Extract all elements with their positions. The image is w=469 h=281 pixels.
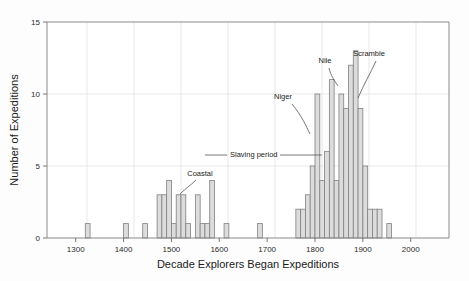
histogram-bar	[363, 166, 368, 238]
histogram-bar	[325, 152, 330, 238]
histogram-bar	[200, 224, 205, 238]
histogram-bar	[301, 209, 306, 238]
y-axis-ticks: 051015	[31, 18, 47, 243]
histogram-bar	[171, 224, 176, 238]
x-tick-label: 1600	[210, 245, 228, 254]
x-tick-label: 1700	[258, 245, 276, 254]
histogram-bar	[315, 94, 320, 238]
histogram-bar	[310, 166, 315, 238]
histogram-bar	[339, 94, 344, 238]
y-tick-label: 0	[36, 234, 41, 243]
histogram-bar	[305, 195, 310, 238]
annotation-label-niger: Niger	[274, 92, 292, 101]
histogram-bar	[377, 209, 382, 238]
x-tick-label: 1900	[354, 245, 372, 254]
y-axis-title: Number of Expeditions	[8, 74, 20, 186]
histogram-bar	[210, 180, 215, 238]
x-tick-label: 1500	[163, 245, 181, 254]
annotation-label-coastal: Coastal	[187, 169, 213, 178]
histogram-bar	[353, 51, 358, 238]
histogram-bar	[334, 180, 339, 238]
x-axis-ticks: 13001400150016001700180019002000	[67, 238, 420, 254]
histogram-bar	[195, 195, 200, 238]
histogram-bar	[296, 209, 301, 238]
chart-figure: 051015 13001400150016001700180019002000 …	[0, 0, 469, 281]
y-tick-label: 10	[31, 90, 40, 99]
y-tick-label: 5	[36, 162, 41, 171]
plot-background	[47, 22, 449, 238]
histogram-bar	[329, 80, 334, 238]
x-tick-label: 1300	[67, 245, 85, 254]
y-tick-label: 15	[31, 18, 40, 27]
annotation-label-scramble: Scramble	[353, 49, 385, 58]
histogram-bar	[344, 108, 349, 238]
histogram-bar	[368, 209, 373, 238]
histogram-bar	[372, 209, 377, 238]
annotation-label-nile: Nile	[319, 56, 332, 65]
histogram-bar	[258, 224, 263, 238]
histogram-bar	[320, 180, 325, 238]
histogram-plot: 051015 13001400150016001700180019002000 …	[0, 0, 469, 281]
histogram-bar	[176, 195, 181, 238]
histogram-bar	[167, 180, 172, 238]
histogram-bar	[85, 224, 90, 238]
histogram-bar	[387, 224, 392, 238]
histogram-bar	[162, 195, 167, 238]
histogram-bar	[181, 195, 186, 238]
histogram-bar	[224, 224, 229, 238]
annotation-label-slaving-period: Slaving period	[230, 150, 278, 159]
x-tick-label: 1400	[115, 245, 133, 254]
x-tick-label: 2000	[402, 245, 420, 254]
histogram-bar	[143, 224, 148, 238]
histogram-bar	[157, 195, 162, 238]
histogram-bar	[358, 108, 363, 238]
histogram-bar	[349, 65, 354, 238]
histogram-bar	[124, 224, 129, 238]
x-tick-label: 1800	[306, 245, 324, 254]
histogram-bar	[205, 224, 210, 238]
x-axis-title: Decade Explorers Began Expeditions	[157, 258, 340, 270]
histogram-bar	[186, 224, 191, 238]
